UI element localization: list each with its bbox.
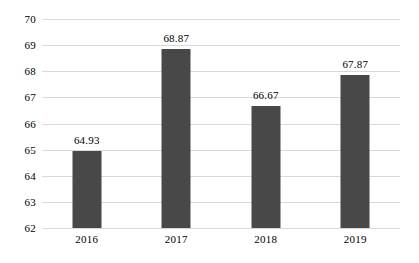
y-axis-tick-label: 67	[10, 92, 36, 103]
bar-group: 64.93	[42, 19, 132, 228]
y-axis: 706968676665646362	[8, 19, 36, 228]
bar[interactable]	[72, 151, 101, 228]
bar-value-label: 67.87	[342, 59, 368, 70]
bar-group: 68.87	[132, 19, 222, 228]
y-axis-tick-label: 63	[10, 197, 36, 208]
y-axis-tick-label: 70	[10, 14, 36, 25]
bar-value-label: 68.87	[163, 33, 189, 44]
bar-chart: 706968676665646362 64.9368.8766.6767.87 …	[0, 0, 419, 263]
y-axis-tick-label: 68	[10, 66, 36, 77]
bar-value-label: 66.67	[253, 90, 279, 101]
x-axis: 2016201720182019	[42, 232, 400, 252]
y-axis-tick-label: 66	[10, 119, 36, 130]
bar-group: 66.67	[221, 19, 311, 228]
x-axis-tick-label: 2016	[42, 232, 132, 246]
bar-group: 67.87	[311, 19, 401, 228]
x-axis-tick-label: 2017	[132, 232, 222, 246]
bar[interactable]	[162, 49, 191, 228]
y-axis-tick-label: 69	[10, 40, 36, 51]
y-axis-tick-label: 64	[10, 171, 36, 182]
bar[interactable]	[251, 106, 280, 228]
x-axis-tick-label: 2019	[311, 232, 401, 246]
bar[interactable]	[341, 75, 370, 228]
plot-area: 64.9368.8766.6767.87	[42, 19, 400, 228]
gridline	[42, 228, 400, 229]
bar-value-label: 64.93	[74, 135, 100, 146]
y-axis-tick-label: 62	[10, 223, 36, 234]
y-axis-tick-label: 65	[10, 145, 36, 156]
x-axis-tick-label: 2018	[221, 232, 311, 246]
